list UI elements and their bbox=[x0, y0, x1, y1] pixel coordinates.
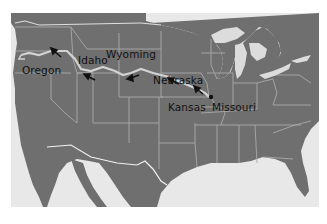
label-idaho: Idaho bbox=[78, 55, 108, 66]
us-landmass-main bbox=[11, 13, 319, 207]
map-graphic bbox=[11, 13, 319, 207]
start-point-dot bbox=[209, 95, 213, 99]
us-map: Oregon Idaho Wyoming Nebraska Kansas Mis… bbox=[11, 13, 319, 207]
label-oregon: Oregon bbox=[22, 65, 61, 76]
label-missouri: Missouri bbox=[212, 102, 256, 113]
label-wyoming: Wyoming bbox=[106, 49, 156, 60]
label-kansas: Kansas bbox=[168, 102, 206, 113]
label-nebraska: Nebraska bbox=[153, 75, 203, 86]
